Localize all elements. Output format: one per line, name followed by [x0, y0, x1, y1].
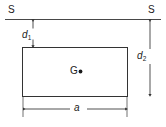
label-dimension-a: a — [74, 103, 80, 113]
centroid-point-icon — [79, 70, 83, 74]
label-surface-s-left: S — [8, 5, 15, 15]
label-d1-base: d — [22, 29, 28, 40]
label-centroid-g: G — [70, 66, 78, 76]
label-d2-subscript: 2 — [143, 55, 147, 62]
dimension-diagram: S S d1 d2 a G — [0, 0, 166, 127]
diagram-canvas — [0, 0, 166, 127]
label-d2-base: d — [137, 50, 143, 61]
label-dimension-d2: d2 — [137, 51, 146, 61]
label-d1-subscript: 1 — [28, 34, 32, 41]
label-dimension-d1: d1 — [22, 30, 31, 40]
label-surface-s-right: S — [148, 5, 155, 15]
